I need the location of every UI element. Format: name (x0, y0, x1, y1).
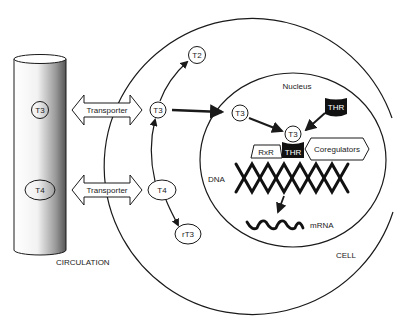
dna-double-helix (236, 164, 348, 192)
bound-t3-label: T3 (288, 130, 298, 139)
rxr-receptor: RxR (251, 145, 282, 158)
transporter-t4: Transporter (72, 175, 142, 205)
circulation-t3-label: T3 (35, 106, 45, 115)
t2-molecule: T2 (189, 47, 206, 64)
arrow-t3-to-nucleus (172, 110, 222, 112)
coregulators-label: Coregulators (314, 145, 360, 154)
arrow-t4-to-rt3 (166, 200, 178, 225)
arrow-t3-to-receptor (249, 118, 282, 131)
cell-label: CELL (336, 251, 357, 260)
bound-t3-molecule: T3 (285, 126, 301, 142)
arrow-dna-to-mrna (278, 196, 284, 212)
cell-membrane (104, 18, 393, 314)
arrow-t4-to-t3 (151, 120, 155, 181)
circulation-label: CIRCULATION (56, 258, 110, 267)
cytoplasm-t3-label: T3 (153, 106, 163, 115)
thr-free-label: THR (328, 103, 345, 112)
nuclear-t3-molecule: T3 (232, 105, 248, 121)
rt3-label: rT3 (182, 230, 195, 239)
cytoplasm-t3-molecule: T3 (150, 102, 166, 118)
dna-label: DNA (208, 175, 226, 184)
thr-bound-receptor: THR (282, 142, 304, 158)
nucleus-label: Nucleus (283, 82, 312, 91)
transporter-t4-label: Transporter (86, 186, 127, 195)
rxr-label: RxR (258, 148, 274, 157)
transporter-t3: Transporter (72, 95, 142, 125)
t2-label: T2 (192, 51, 202, 60)
circulation-vessel (14, 55, 66, 256)
mrna-strand (247, 221, 303, 229)
transporter-t3-label: Transporter (86, 106, 127, 115)
cytoplasm-t4-molecule: T4 (148, 180, 176, 200)
cytoplasm-t4-label: T4 (157, 186, 167, 195)
coregulators-complex: Coregulators (305, 138, 369, 160)
nuclear-t3-label: T3 (235, 109, 245, 118)
arrow-t3-to-t2 (160, 62, 187, 101)
mrna-label: mRNA (310, 221, 334, 230)
circulation-t4-label: T4 (35, 186, 45, 195)
thyroid-hormone-pathway-diagram: T3 T4 Transporter Transporter T3 T4 T2 r… (0, 0, 406, 329)
arrow-thr-to-complex (306, 113, 325, 130)
thr-bound-label: THR (285, 148, 302, 157)
rt3-molecule: rT3 (175, 224, 201, 244)
thr-free-receptor: THR (325, 98, 347, 117)
